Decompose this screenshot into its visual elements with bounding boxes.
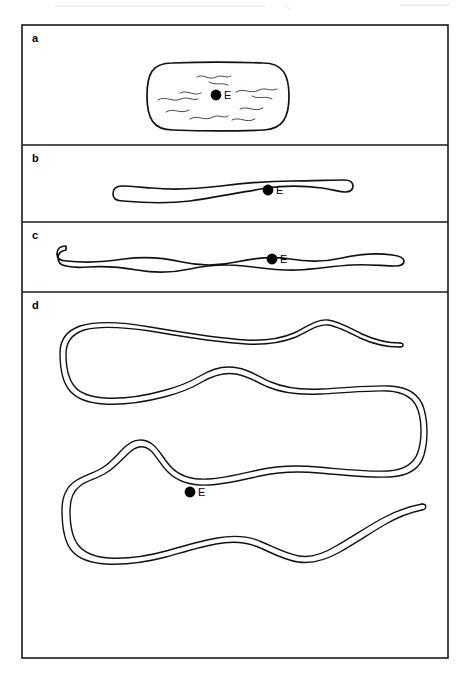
figure-canvas: a E b E <box>0 0 468 683</box>
panel-d-contour-inner <box>66 325 427 558</box>
panel-b-cell-outline <box>113 180 353 203</box>
panel-c-cell-outline <box>57 246 404 272</box>
panel-d-filament <box>60 320 427 564</box>
panel-a-e-marker-label: E <box>224 89 231 101</box>
panel-c-letter: c <box>32 229 38 241</box>
panel-c-e-marker-dot <box>267 254 278 265</box>
panel-d-e-marker-label: E <box>198 486 205 498</box>
panel-c-e-marker-label: E <box>280 253 287 265</box>
panel-a: a E <box>32 32 289 131</box>
panel-b: b E <box>32 152 353 203</box>
panel-b-letter: b <box>32 152 39 164</box>
panel-b-e-marker-label: E <box>276 184 283 196</box>
scan-artifact <box>55 4 450 10</box>
panel-d-end-cap-top <box>400 343 403 347</box>
panel-d-e-marker-dot <box>185 487 196 498</box>
panel-c: c E <box>32 229 404 272</box>
panel-a-e-marker-dot <box>211 90 222 101</box>
panel-b-e-marker-dot <box>263 185 274 196</box>
panel-d: d E <box>32 299 427 564</box>
figure-root: a E b E <box>0 0 468 683</box>
panel-d-end-cap-bottom <box>422 504 426 510</box>
panel-d-letter: d <box>32 299 39 311</box>
panel-a-letter: a <box>32 32 39 44</box>
